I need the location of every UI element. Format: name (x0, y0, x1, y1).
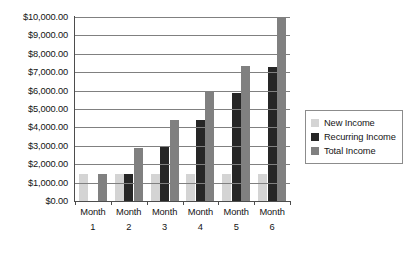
x-axis-label-number: 2 (116, 221, 141, 234)
x-axis-tick (75, 201, 76, 205)
y-axis-tick-label: $8,000.00 (28, 49, 68, 58)
bar (151, 174, 160, 201)
plot-area (75, 17, 290, 201)
y-axis-tick-label: $4,000.00 (28, 123, 68, 132)
bar (170, 120, 179, 201)
x-axis-category-label: Month5 (224, 206, 249, 234)
chart-legend: New IncomeRecurring IncomeTotal Income (305, 110, 403, 164)
x-axis-category-label: Month2 (116, 206, 141, 234)
bar (115, 174, 124, 201)
x-axis-label-number: 5 (224, 221, 249, 234)
x-axis-label-word: Month (116, 207, 141, 217)
bar (134, 148, 143, 201)
y-axis: $0.00$1,000.00$2,000.00$3,000.00$4,000.0… (0, 0, 72, 257)
x-axis-category-label: Month4 (188, 206, 213, 234)
gridline (75, 91, 290, 92)
legend-swatch-icon (311, 133, 319, 141)
legend-label: Total Income (324, 146, 376, 156)
x-axis-tick (147, 201, 148, 205)
x-axis-tick (183, 201, 184, 205)
bar (160, 147, 169, 201)
bar (241, 66, 250, 201)
x-axis-label-number: 1 (80, 221, 105, 234)
x-axis-tick (218, 201, 219, 205)
bar (186, 174, 195, 201)
y-axis-tick-label: $5,000.00 (28, 105, 68, 114)
bar (79, 174, 88, 201)
y-axis-tick-label: $9,000.00 (28, 31, 68, 40)
x-axis-label-word: Month (224, 207, 249, 217)
y-axis-tick-label: $3,000.00 (28, 141, 68, 150)
gridline (75, 54, 290, 55)
gridline (75, 164, 290, 165)
legend-label: New Income (324, 118, 375, 128)
x-axis-category-label: Month1 (80, 206, 105, 234)
gridline (75, 17, 290, 18)
legend-item: Total Income (311, 144, 396, 158)
bar (258, 174, 267, 201)
x-axis-label-word: Month (259, 207, 284, 217)
y-axis-tick-label: $2,000.00 (28, 160, 68, 169)
x-axis-category-label: Month3 (152, 206, 177, 234)
x-axis-label-word: Month (80, 207, 105, 217)
gridline (75, 146, 290, 147)
bar (98, 174, 107, 201)
x-axis-label-number: 4 (188, 221, 213, 234)
legend-swatch-icon (311, 119, 319, 127)
x-axis-category-label: Month6 (259, 206, 284, 234)
gridline (75, 109, 290, 110)
x-axis-label-word: Month (188, 207, 213, 217)
y-axis-tick-label: $1,000.00 (28, 178, 68, 187)
x-axis-ticks (75, 201, 290, 205)
gridline (75, 127, 290, 128)
x-axis-labels: Month1Month2Month3Month4Month5Month6 (75, 206, 290, 246)
legend-swatch-icon (311, 147, 319, 155)
y-axis-tick-label: $7,000.00 (28, 68, 68, 77)
x-axis-label-number: 6 (259, 221, 284, 234)
gridline (75, 183, 290, 184)
bar (124, 174, 133, 201)
x-axis-tick (290, 201, 291, 205)
bar-chart: $0.00$1,000.00$2,000.00$3,000.00$4,000.0… (0, 0, 419, 257)
legend-item: New Income (311, 116, 396, 130)
legend-item: Recurring Income (311, 130, 396, 144)
y-axis-tick-label: $0.00 (45, 197, 68, 206)
legend-label: Recurring Income (324, 132, 396, 142)
y-axis-tick-label: $10,000.00 (23, 13, 68, 22)
x-axis-label-word: Month (152, 207, 177, 217)
x-axis-tick (254, 201, 255, 205)
gridline (75, 35, 290, 36)
x-axis-tick (111, 201, 112, 205)
y-axis-tick-label: $6,000.00 (28, 86, 68, 95)
bar (196, 120, 205, 201)
x-axis-label-number: 3 (152, 221, 177, 234)
bar (222, 174, 231, 201)
gridline (75, 72, 290, 73)
bar (268, 67, 277, 201)
